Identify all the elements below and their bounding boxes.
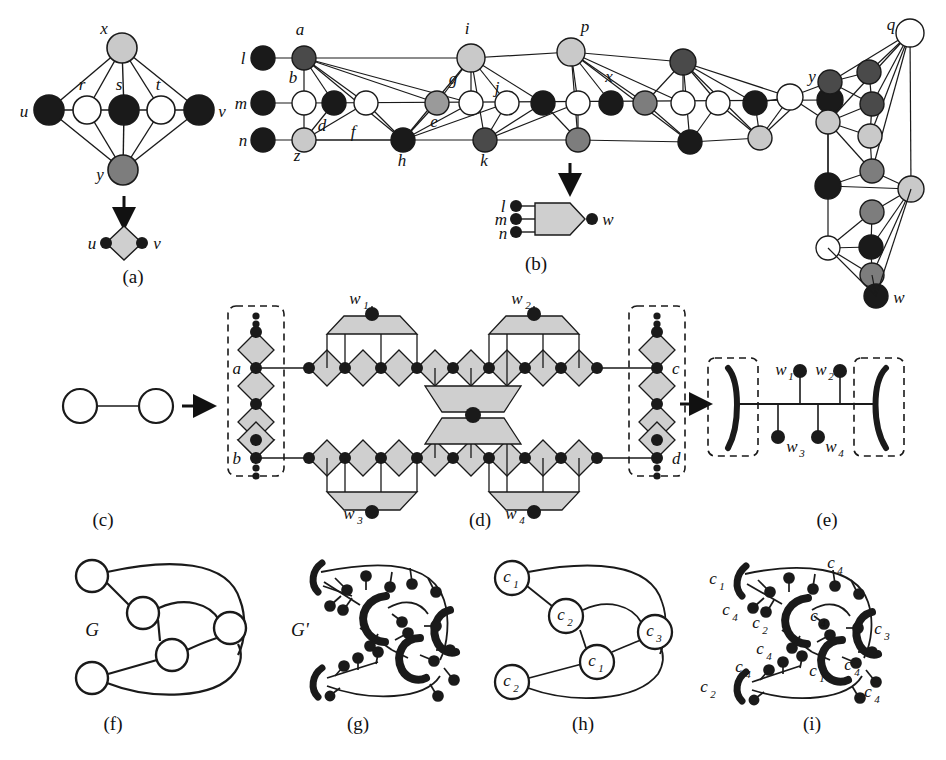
gadget-input-l <box>510 200 522 212</box>
figure-root: x u r s t v y u v (a) <box>0 0 946 760</box>
node-b-top2 <box>670 49 696 75</box>
panel-a-result-dot-u <box>100 237 112 249</box>
panel-d-label-w4-sub: 4 <box>519 514 525 526</box>
panel-label-g: (g) <box>347 713 369 735</box>
node-q-c2 <box>860 92 884 116</box>
panel-h-node-1 <box>495 561 529 595</box>
panel-i-label-c4-center: c <box>810 606 818 625</box>
panel-g-graph-label: G' <box>291 619 310 640</box>
panel-e-label-w3-sub: 3 <box>798 447 805 459</box>
panel-h-label-4-sub: 3 <box>655 632 662 644</box>
node-r <box>73 96 101 124</box>
panel-b: l m n a b d z f e g h i j k x p y q w l <box>235 15 924 308</box>
node-label-g-b: g <box>449 69 458 88</box>
panel-d-label-c: c <box>672 359 680 378</box>
panel-g-pendants <box>325 568 459 701</box>
panel-e-label-w2-sub: 2 <box>828 370 834 382</box>
panel-g-vertex-2 <box>363 596 386 642</box>
panel-e-label-w3: w <box>786 437 798 456</box>
node-label-y: y <box>94 165 104 184</box>
node-x <box>599 91 623 115</box>
panel-a-result-label-u: u <box>88 234 97 253</box>
panel-d-label-w1-sub: 1 <box>363 299 369 311</box>
panel-h-label-5: c <box>503 671 511 690</box>
panel-b-gadget: l m n w <box>495 197 614 243</box>
panel-a: x u r s t v y u v (a) <box>20 19 226 288</box>
panel-h-label-1: c <box>503 567 511 586</box>
panel-d-right-chain: c d <box>639 312 681 479</box>
panel-h-label-5-sub: 2 <box>513 682 519 694</box>
panel-i-label-c4-bot-sub: 4 <box>874 693 880 705</box>
panel-i-label-c3-right: c <box>874 619 882 638</box>
panel-h-label-2-sub: 2 <box>567 616 573 628</box>
node-b-w7 <box>777 84 803 110</box>
gadget-label-n: n <box>499 224 508 243</box>
panel-d-label-w3: w <box>343 504 355 523</box>
panel-h-node-4 <box>638 615 672 649</box>
node-q-c9 <box>860 200 884 224</box>
node-f <box>354 91 378 115</box>
panel-d-left-chain: a b <box>233 312 275 479</box>
panel-i: c 1 c 4 c 4 c 2 c 4 c 3 c 4 c 4 c 1 c 4 … <box>700 553 890 735</box>
panel-d-node-w3 <box>365 505 379 519</box>
panel-d-label-w1: w <box>349 289 361 308</box>
node-l <box>251 46 275 70</box>
gadget-input-n <box>510 226 522 238</box>
node-label-x: x <box>99 19 108 38</box>
node-g <box>459 91 483 115</box>
node-b-k2 <box>531 91 555 115</box>
node-b-w5 <box>706 91 730 115</box>
panel-i-label-c1-low: c <box>809 661 817 680</box>
panel-h-label-3: c <box>588 651 596 670</box>
panel-d-label-b: b <box>233 449 242 468</box>
node-label-i-b: i <box>465 19 470 38</box>
panel-i-vertex-c2 <box>785 598 808 644</box>
panel-i-label-c4-low-sub: 4 <box>745 668 751 680</box>
panel-e-node-w3 <box>771 430 785 444</box>
node-p <box>557 38 585 66</box>
panel-i-label-c4-low2-sub: 4 <box>854 666 860 678</box>
panel-i-label-c4-low: c <box>735 657 743 676</box>
panel-f: G (f) <box>76 560 246 735</box>
gadget-input-m <box>510 213 522 225</box>
panel-d-label-w3-sub: 3 <box>356 514 363 526</box>
panel-e-node-w2 <box>833 364 847 378</box>
panel-d-label-w2: w <box>511 289 523 308</box>
node-label-y-b: y <box>806 67 816 86</box>
node-d <box>322 91 346 115</box>
panel-h-label-1-sub: 1 <box>513 578 519 590</box>
panel-i-label-c4-top-sub: 4 <box>837 564 843 576</box>
node-label-r: r <box>79 75 86 94</box>
panel-e-label-w1: w <box>775 360 787 379</box>
panel-i-label-c1-top: c <box>709 569 717 588</box>
panel-i-label-c3-right-sub: 3 <box>883 630 890 642</box>
node-label-f-b: f <box>351 122 358 141</box>
node-q-c5 <box>858 124 882 148</box>
panel-i-label-c4-bot: c <box>864 682 872 701</box>
node-label-z-b: z <box>293 146 301 165</box>
node-k <box>473 128 497 152</box>
panel-e: w 1 w 2 w 3 w 4 (e) <box>680 358 904 531</box>
gadget-label-w: w <box>602 210 614 229</box>
node-label-p-b: p <box>580 17 590 36</box>
gadget-shape <box>535 203 585 235</box>
node-x <box>107 33 137 63</box>
panel-label-i: (i) <box>803 713 821 735</box>
panel-h-label-3-sub: 1 <box>598 662 604 674</box>
node-b-w1 <box>566 91 590 115</box>
node-n <box>251 128 275 152</box>
panel-i-pendants <box>748 570 881 705</box>
panel-i-label-c2-bot-sub: 2 <box>710 688 716 700</box>
panel-h-label-2: c <box>557 605 565 624</box>
panel-f-node-1 <box>76 560 108 592</box>
panel-i-label-c4-low2: c <box>844 655 852 674</box>
node-label-x-b: x <box>604 67 613 86</box>
panel-g-vertex-3 <box>399 638 426 680</box>
panel-e-node-w4 <box>811 430 825 444</box>
node-q-c6 <box>860 159 884 183</box>
panel-c: (c) <box>63 389 208 531</box>
node-s <box>109 95 139 125</box>
panel-h-node-5 <box>495 665 529 699</box>
node-label-l: l <box>241 49 246 68</box>
panel-a-result-label-v: v <box>153 234 161 253</box>
